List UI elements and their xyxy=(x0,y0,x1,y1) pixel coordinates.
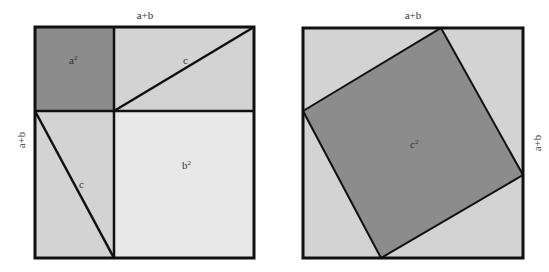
left-top-label: a+b xyxy=(137,9,154,21)
right-top-label: a+b xyxy=(405,9,422,21)
left-hypotenuse-label: c xyxy=(79,178,84,190)
right-side-label: a+b xyxy=(531,134,543,151)
left-side-label: a+b xyxy=(15,131,27,148)
right-figure: a+b a+b c2 xyxy=(303,9,543,258)
left-figure: a+b a+b a2 c c b2 xyxy=(15,9,254,258)
b-squared-region xyxy=(114,111,254,258)
a-squared-region xyxy=(35,27,114,111)
top-hypotenuse-label: c xyxy=(183,54,188,66)
pythagorean-diagram: a+b a+b a2 c c b2 a+b a+b c2 xyxy=(0,0,549,272)
